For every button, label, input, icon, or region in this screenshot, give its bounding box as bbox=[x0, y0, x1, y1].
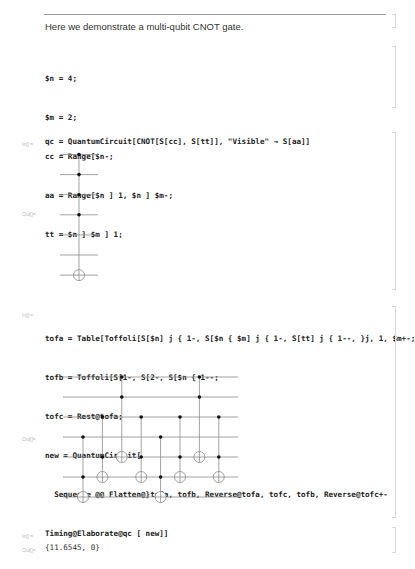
control-dot-icon bbox=[81, 475, 85, 479]
control-dot-icon bbox=[198, 375, 202, 379]
control-dot-icon bbox=[159, 435, 163, 439]
cell3-output: {11.6545, 0} bbox=[45, 541, 100, 554]
cell3-input[interactable]: Timing@Elaborate@qc [ new]] bbox=[45, 527, 168, 540]
cell-bracket[interactable] bbox=[392, 132, 396, 290]
cell-bracket[interactable] bbox=[392, 306, 396, 518]
cell-bracket[interactable] bbox=[392, 527, 396, 553]
control-dot-icon bbox=[101, 455, 105, 459]
control-dot-icon bbox=[120, 395, 124, 399]
control-dot-icon bbox=[101, 415, 105, 419]
cell-bracket[interactable] bbox=[392, 46, 396, 108]
control-dot-icon bbox=[120, 375, 124, 379]
control-dot-icon bbox=[178, 455, 182, 459]
in-label: In[]:= bbox=[22, 533, 33, 539]
control-dot-icon bbox=[81, 435, 85, 439]
control-dot-icon bbox=[217, 415, 221, 419]
control-dot-icon bbox=[198, 395, 202, 399]
control-dot-icon bbox=[217, 455, 221, 459]
control-dot-icon bbox=[178, 415, 182, 419]
control-dot-icon bbox=[139, 415, 143, 419]
control-dot-icon bbox=[159, 475, 163, 479]
control-dot-icon bbox=[139, 455, 143, 459]
out-label: Out[]= bbox=[22, 547, 36, 553]
cell-bracket[interactable] bbox=[392, 14, 396, 28]
